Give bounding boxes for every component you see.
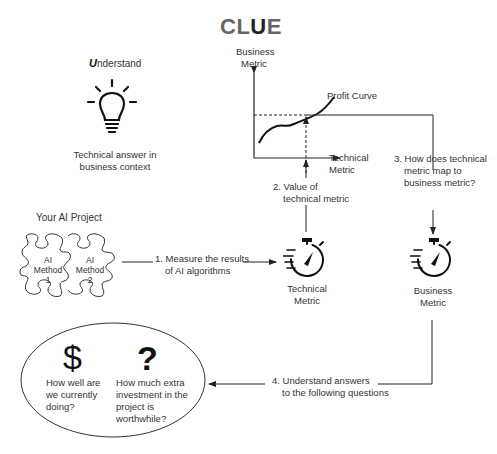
technical-metric-stopwatch-icon [283,236,327,280]
chart-y-label: Business Metric [236,46,275,70]
understand-letter: U [89,57,97,69]
understand-heading: Understand [89,57,141,70]
title-prefix: CL [220,14,250,39]
question-2: How much extra investment in the project… [116,377,188,425]
lightbulb-icon [84,78,140,134]
question-mark-icon: ? [137,341,158,375]
step3-label: 3. How does technical metric map to busi… [394,153,487,189]
question-1: How well are we currently doing? [46,377,100,413]
title-highlight-letter: U [250,14,266,39]
page-title: CLUE [220,14,282,40]
profit-curve [259,97,334,143]
step4-label: 4. Understand answers to the following q… [272,375,389,399]
puzzle-piece-1: AI Method 1 [30,255,66,285]
understand-rest: nderstand [97,58,141,69]
dollar-icon: $ [63,340,82,374]
title-suffix: E [267,14,282,39]
step1-label: 1. Measure the results of AI algorithms [155,253,249,277]
puzzle-piece-2: AI Method 2 [72,255,108,285]
chart-x-label: Technical Metric [329,152,369,176]
business-metric-label: Business Metric [408,285,458,309]
profit-curve-label: Profit Curve [327,90,377,102]
technical-metric-label: Technical Metric [282,283,332,307]
business-metric-stopwatch-icon [410,236,454,280]
project-label: Your AI Project [36,212,102,224]
understand-caption: Technical answer in business context [70,149,160,173]
step2-label: 2. Value of technical metric [273,181,349,205]
